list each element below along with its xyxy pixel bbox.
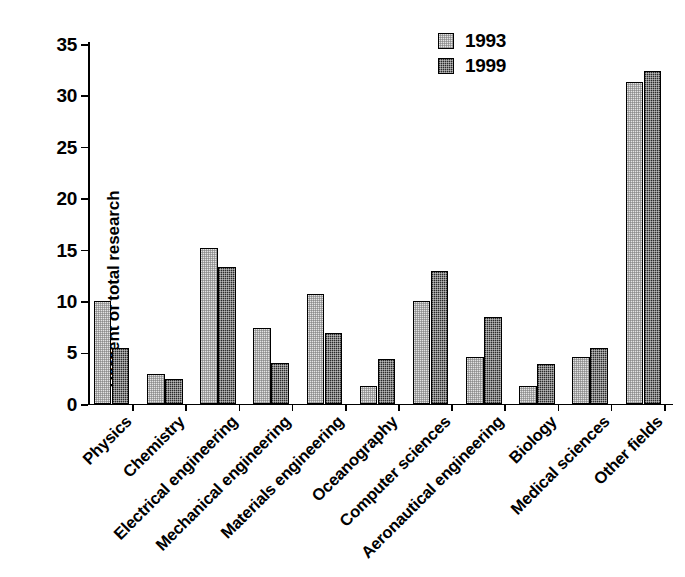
y-axis-title: Percent of total research: [16, 279, 44, 299]
bar-1999: [325, 333, 343, 404]
y-axis-tick: 0: [81, 404, 88, 406]
bar-1999: [590, 348, 608, 404]
y-axis-tick-label: 15: [56, 240, 77, 262]
bar-1993: [626, 82, 644, 404]
y-axis-tick: 30: [81, 95, 88, 97]
y-axis-tick: 10: [81, 301, 88, 303]
bar-1993: [200, 248, 218, 404]
y-axis-tick-label: 25: [56, 137, 77, 159]
legend: 19931999: [438, 28, 506, 78]
bar-group: [360, 44, 396, 404]
bar-1999: [644, 71, 662, 404]
x-axis-tick: [504, 404, 506, 411]
y-axis-tick-label: 0: [67, 394, 77, 416]
bar-1999: [218, 267, 236, 404]
bar-1993: [253, 328, 271, 404]
y-axis-tick: 20: [81, 198, 88, 200]
bar-1993: [413, 301, 431, 404]
bar-1999: [431, 271, 449, 404]
x-axis-tick: [185, 404, 187, 411]
bar-group: [413, 44, 449, 404]
x-axis-tick: [664, 404, 666, 411]
x-axis-tick: [398, 404, 400, 411]
bar-group: [519, 44, 555, 404]
bar-group: [200, 44, 236, 404]
legend-item: 1999: [438, 53, 506, 78]
legend-label: 1999: [465, 55, 506, 77]
bar-1993: [519, 386, 537, 405]
x-axis-tick: [345, 404, 347, 411]
bar-group: [253, 44, 289, 404]
bar-1993: [466, 357, 484, 404]
bar-1999: [112, 348, 130, 404]
legend-swatch: [438, 33, 454, 49]
y-axis-tick: 35: [81, 44, 88, 46]
y-axis-tick: 5: [81, 353, 88, 355]
bar-group: [307, 44, 343, 404]
bar-1993: [572, 357, 590, 404]
x-axis-tick: [558, 404, 560, 411]
bar-chart: Percent of total research 05101520253035…: [0, 0, 685, 577]
bar-group: [572, 44, 608, 404]
bar-1999: [537, 364, 555, 404]
x-axis-tick: [611, 404, 613, 411]
y-axis-tick: 25: [81, 147, 88, 149]
bar-1993: [147, 374, 165, 404]
bar-group: [626, 44, 662, 404]
y-axis-tick: 15: [81, 250, 88, 252]
bar-group: [466, 44, 502, 404]
bar-1999: [484, 317, 502, 404]
bar-1993: [307, 294, 325, 404]
bar-1993: [360, 386, 378, 405]
legend-label: 1993: [465, 30, 506, 52]
bar-group: [94, 44, 130, 404]
bar-1993: [94, 301, 112, 404]
plot-area: 05101520253035: [88, 44, 673, 404]
y-axis-tick-label: 30: [56, 85, 77, 107]
x-axis-label: Medical sciences: [507, 412, 614, 519]
x-axis-tick: [239, 404, 241, 411]
legend-swatch: [438, 58, 454, 74]
y-axis-tick-label: 35: [56, 34, 77, 56]
y-axis-tick-label: 10: [56, 291, 77, 313]
bar-1999: [378, 359, 396, 404]
y-axis-tick-label: 5: [67, 342, 77, 364]
bar-1999: [165, 379, 183, 404]
y-axis-tick-label: 20: [56, 188, 77, 210]
bar-1999: [271, 363, 289, 404]
bar-group: [147, 44, 183, 404]
x-axis-tick: [292, 404, 294, 411]
x-axis-tick: [132, 404, 134, 411]
x-axis-tick: [451, 404, 453, 411]
legend-item: 1993: [438, 28, 506, 53]
